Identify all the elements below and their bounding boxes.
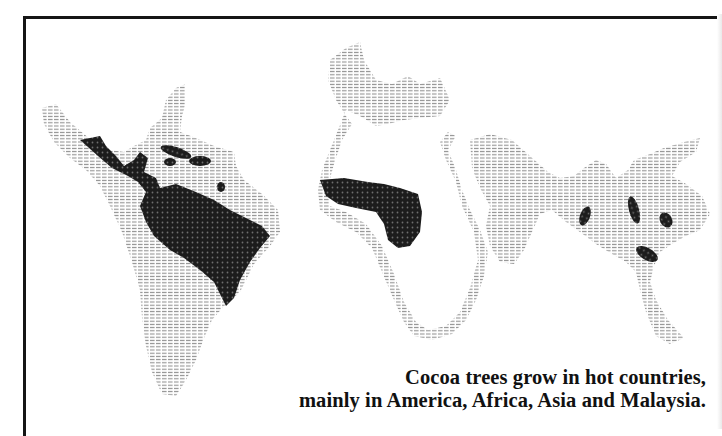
caption-line-1: Cocoa trees grow in hot countries,: [299, 366, 706, 389]
asia-landmass: [470, 134, 710, 344]
figure-caption: Cocoa trees grow in hot countries, mainl…: [299, 366, 706, 412]
caption-line-2: mainly in America, Africa, Asia and Mala…: [299, 389, 706, 412]
